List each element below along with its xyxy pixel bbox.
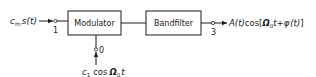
modulator-block: Modulator [68, 11, 121, 35]
carrier-signal-label: c1cosΩ0t [82, 67, 125, 77]
block-diagram: cms(t) 1 Modulator 0 c1cosΩ0t Bandfilter… [0, 0, 316, 77]
terminal-1-icon [54, 19, 57, 22]
output-signal-label: A(t)cos[Ω0t+φ(t)] [228, 18, 304, 29]
bandfilter-label: Bandfilter [154, 19, 194, 28]
terminal-1-label: 1 [53, 26, 58, 35]
terminal-0-label: 0 [99, 46, 104, 55]
terminal-3-icon [211, 21, 214, 24]
terminal-3-label: 3 [211, 28, 216, 37]
terminal-0-icon [94, 48, 97, 51]
modulator-label: Modulator [74, 19, 115, 28]
input-signal-label: cms(t) [10, 16, 37, 27]
bandfilter-block: Bandfilter [146, 11, 201, 35]
